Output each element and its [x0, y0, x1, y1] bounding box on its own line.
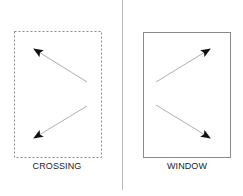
window-panel: [144, 33, 231, 158]
crossing-selection-box: [15, 32, 102, 158]
window-selection-box: [144, 33, 231, 158]
arrow-up-right-icon: [156, 49, 210, 82]
arrow-down-right-icon: [156, 105, 210, 138]
arrow-down-left-icon: [34, 106, 87, 138]
arrow-up-left-icon: [34, 49, 87, 82]
window-label: WINDOW: [142, 161, 232, 171]
crossing-label: CROSSING: [12, 161, 102, 171]
crossing-panel: [15, 32, 102, 158]
